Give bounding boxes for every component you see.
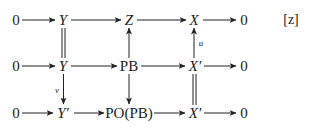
node-r2-Xprime: X′ — [189, 58, 201, 74]
node-r1-Z: Z — [125, 12, 133, 28]
node-r1-X: X — [189, 12, 198, 28]
node-r3-zero-left: 0 — [12, 105, 20, 121]
node-r2-Y: Y — [59, 58, 67, 74]
node-r3-Yprime: Y′ — [57, 105, 69, 121]
node-r3-POPB: PO(PB) — [105, 105, 153, 121]
equation-tag: [z] — [283, 12, 299, 28]
node-r3-zero-right: 0 — [240, 105, 248, 121]
arrow-label-u: u — [199, 38, 204, 48]
node-r1-zero-right: 0 — [240, 12, 248, 28]
node-r2-PB: PB — [120, 58, 138, 74]
diagram-arrows — [0, 0, 326, 132]
node-r3-Xprime: X′ — [189, 105, 201, 121]
node-r2-zero-left: 0 — [12, 58, 20, 74]
node-r1-zero-left: 0 — [12, 12, 20, 28]
node-r1-Y: Y — [59, 12, 67, 28]
commutative-diagram: 0 Y Z X 0 [z] 0 Y PB X′ 0 0 Y′ PO(PB) X′… — [0, 0, 326, 132]
node-r2-zero-right: 0 — [240, 58, 248, 74]
arrow-label-v: v — [55, 85, 59, 95]
